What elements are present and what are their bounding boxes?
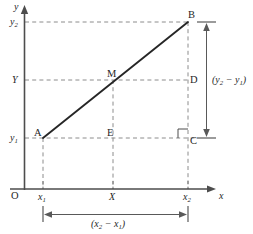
x-tick-x2-sub: 2 xyxy=(187,196,190,203)
right-angle-mark-C xyxy=(178,129,188,138)
horizontal-dimension-label: (x2 − x1) xyxy=(91,219,125,231)
point-label-A: A xyxy=(34,128,42,139)
y-tick-label-Y: Y xyxy=(12,75,18,87)
x-tick-x1-sub: 1 xyxy=(42,196,45,203)
vdim-close: ) xyxy=(243,74,246,85)
y-tick-label-y1: y1 xyxy=(10,133,18,145)
y-tick-y1-sub: 1 xyxy=(14,137,17,144)
point-label-E: E xyxy=(107,128,113,139)
y-tick-label-y2: y2 xyxy=(10,17,18,29)
x-tick-label-x1: x1 xyxy=(38,192,46,204)
vertical-dimension-arrow-up xyxy=(203,23,210,31)
point-label-M: M xyxy=(107,69,116,80)
x-axis-ticks xyxy=(43,181,188,189)
horizontal-dimension-arrow-left xyxy=(44,211,52,218)
y-tick-Y-base: Y xyxy=(12,74,18,85)
x-axis-label: x xyxy=(219,191,223,201)
origin-label: O xyxy=(11,191,19,202)
x-axis-arrowhead xyxy=(207,185,216,192)
vertical-dimension-arrow-down xyxy=(203,129,210,137)
construction-grid xyxy=(25,22,196,189)
geometry-figure: y x O y2 Y y1 x1 X x2 A B C D E M (y2 − … xyxy=(0,0,253,234)
point-label-C: C xyxy=(190,136,197,147)
axes xyxy=(10,5,216,193)
y-tick-y2-sub: 2 xyxy=(14,21,17,28)
horizontal-dimension-arrow-right xyxy=(179,211,187,218)
point-label-B: B xyxy=(188,10,195,21)
x-tick-label-X: X xyxy=(109,192,115,204)
hdim-close: ) xyxy=(122,218,125,229)
y-axis-arrowhead xyxy=(21,5,28,14)
hdim-minus: − xyxy=(102,218,114,229)
x-tick-X-base: X xyxy=(109,191,115,202)
y-axis-label: y xyxy=(14,2,18,12)
vdim-minus: − xyxy=(223,74,235,85)
vertical-dimension-label: (y2 − y1) xyxy=(212,75,246,87)
x-tick-label-x2: x2 xyxy=(183,192,191,204)
point-label-D: D xyxy=(190,75,198,86)
